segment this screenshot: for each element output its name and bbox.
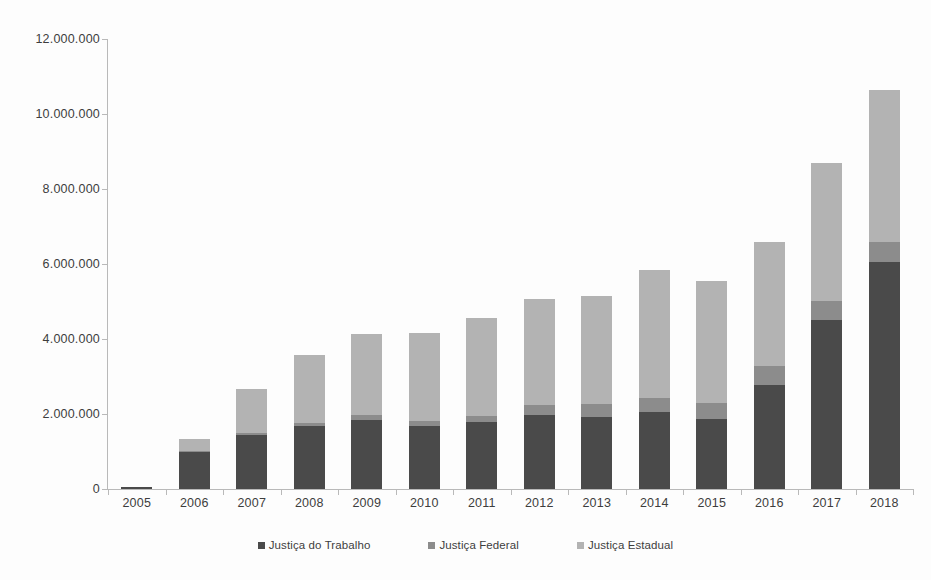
bar-segment[interactable] — [294, 426, 325, 489]
bar-segment[interactable] — [811, 301, 842, 321]
legend-item[interactable]: Justiça Estadual — [577, 539, 673, 551]
bar-segment[interactable] — [811, 320, 842, 489]
bar-segment[interactable] — [869, 262, 900, 489]
bar-segment[interactable] — [236, 435, 267, 489]
chart-legend: Justiça do TrabalhoJustiça FederalJustiç… — [0, 539, 931, 551]
y-axis-tick-label: 2.000.000 — [43, 407, 100, 421]
bar-group[interactable] — [581, 296, 612, 489]
bars-layer — [108, 0, 913, 525]
legend-label: Justiça do Trabalho — [269, 539, 371, 551]
bar-segment[interactable] — [869, 242, 900, 263]
y-axis-tick-label: 8.000.000 — [43, 182, 100, 196]
legend-item[interactable]: Justiça do Trabalho — [258, 539, 371, 551]
bar-segment[interactable] — [179, 452, 210, 489]
bar-group[interactable] — [294, 355, 325, 489]
y-axis-tick-label: 4.000.000 — [43, 332, 100, 346]
bar-segment[interactable] — [179, 439, 210, 451]
bar-segment[interactable] — [581, 417, 612, 489]
bar-segment[interactable] — [121, 487, 152, 489]
bar-segment[interactable] — [869, 90, 900, 242]
x-axis-category-label: 2014 — [640, 496, 669, 510]
bar-segment[interactable] — [581, 404, 612, 417]
y-axis-tick-label: 0 — [93, 482, 100, 496]
y-axis-tick-label: 12.000.000 — [35, 32, 100, 46]
stacked-bar-chart: 02.000.0004.000.0006.000.0008.000.00010.… — [0, 0, 931, 580]
bar-segment[interactable] — [524, 299, 555, 405]
bar-segment[interactable] — [524, 415, 555, 489]
legend-swatch-icon — [428, 542, 435, 549]
bar-segment[interactable] — [754, 242, 785, 366]
x-axis-category-label: 2010 — [410, 496, 439, 510]
x-axis-category-label: 2013 — [582, 496, 611, 510]
x-axis-category-label: 2009 — [352, 496, 381, 510]
bar-group[interactable] — [696, 281, 727, 489]
bar-group[interactable] — [869, 90, 900, 489]
x-axis-category-label: 2015 — [697, 496, 726, 510]
legend-label: Justiça Federal — [439, 539, 518, 551]
bar-segment[interactable] — [466, 422, 497, 489]
x-axis-category-labels: 2005200620072008200920102011201220132014… — [108, 496, 913, 522]
bar-segment[interactable] — [696, 419, 727, 489]
bar-group[interactable] — [121, 487, 152, 489]
bar-group[interactable] — [639, 270, 670, 489]
x-axis-category-label: 2008 — [295, 496, 324, 510]
legend-item[interactable]: Justiça Federal — [428, 539, 518, 551]
bar-segment[interactable] — [409, 333, 440, 421]
x-axis-category-label: 2006 — [180, 496, 209, 510]
bar-segment[interactable] — [639, 398, 670, 413]
x-axis-category-label: 2017 — [812, 496, 841, 510]
bar-segment[interactable] — [236, 389, 267, 433]
x-axis-category-label: 2005 — [122, 496, 151, 510]
bar-segment[interactable] — [696, 403, 727, 419]
y-axis-tick-label: 6.000.000 — [43, 257, 100, 271]
bar-segment[interactable] — [351, 420, 382, 489]
bar-segment[interactable] — [466, 416, 497, 423]
bar-segment[interactable] — [581, 296, 612, 404]
bar-segment[interactable] — [524, 405, 555, 415]
plot-area: 02.000.0004.000.0006.000.0008.000.00010.… — [0, 0, 931, 525]
bar-segment[interactable] — [294, 355, 325, 423]
bar-segment[interactable] — [754, 366, 785, 385]
bar-segment[interactable] — [639, 270, 670, 398]
bar-group[interactable] — [754, 242, 785, 489]
bar-group[interactable] — [466, 318, 497, 489]
bar-group[interactable] — [524, 299, 555, 489]
bar-segment[interactable] — [696, 281, 727, 403]
bar-group[interactable] — [811, 163, 842, 489]
bar-segment[interactable] — [754, 385, 785, 489]
bar-group[interactable] — [351, 334, 382, 489]
bar-group[interactable] — [236, 389, 267, 489]
y-axis-labels: 02.000.0004.000.0006.000.0008.000.00010.… — [8, 0, 100, 525]
x-axis-category-label: 2016 — [755, 496, 784, 510]
y-axis-tick-label: 10.000.000 — [35, 107, 100, 121]
bar-group[interactable] — [409, 333, 440, 489]
x-axis-category-label: 2011 — [468, 496, 496, 510]
bar-segment[interactable] — [639, 412, 670, 489]
x-axis-tick — [913, 489, 914, 495]
x-axis-category-label: 2012 — [525, 496, 554, 510]
legend-swatch-icon — [258, 542, 265, 549]
bar-segment[interactable] — [409, 426, 440, 489]
legend-label: Justiça Estadual — [588, 539, 673, 551]
bar-segment[interactable] — [466, 318, 497, 416]
bar-segment[interactable] — [811, 163, 842, 301]
legend-swatch-icon — [577, 542, 584, 549]
bar-group[interactable] — [179, 439, 210, 489]
bar-segment[interactable] — [351, 334, 382, 415]
x-axis-category-label: 2018 — [870, 496, 899, 510]
x-axis-category-label: 2007 — [237, 496, 266, 510]
